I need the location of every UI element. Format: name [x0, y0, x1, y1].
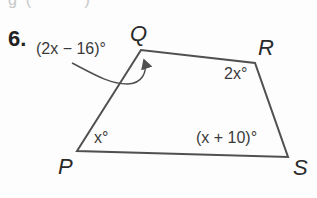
angle-label-p: x° [94, 130, 108, 146]
vertex-label-r: R [258, 37, 274, 59]
vertex-label-p: P [58, 156, 73, 178]
angle-pointer-arrow [72, 60, 145, 84]
geometry-figure: g ( ) 6. Q R P S (2x − 16)° 2x° x° (x + … [0, 0, 317, 198]
vertex-label-q: Q [130, 23, 147, 45]
vertex-label-s: S [293, 157, 308, 179]
quadrilateral-diagram [0, 0, 317, 198]
angle-label-s: (x + 10)° [196, 130, 257, 146]
angle-label-r: 2x° [224, 66, 247, 82]
angle-label-q: (2x − 16)° [36, 41, 106, 57]
problem-number: 6. [8, 28, 26, 50]
